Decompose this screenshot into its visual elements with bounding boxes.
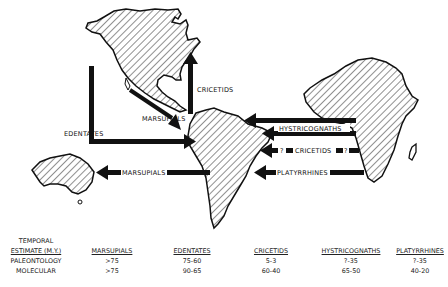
column-header-marsupials: MARSUPIALS [72,236,152,256]
table-cell: >75 [72,256,152,266]
table-cell: ?-35 [310,256,392,266]
row-label: PALEONTOLOGY [0,256,72,266]
label-cricetids-af: CRICETIDS [295,147,331,155]
temporal-estimate-table: TEMPORAL ESTIMATE (M.Y.) MARSUPIALS EDEN… [0,236,448,276]
table-row: PALEONTOLOGY >75 75-60 5-3 ?-35 ?-35 [0,256,448,266]
label-edentates: EDENTATES [64,130,104,138]
australia-region [32,154,94,194]
row-header-line1: TEMPORAL [0,236,72,246]
table-cell: 75-60 [152,256,232,266]
south-america-region [188,108,272,228]
column-header-cricetids: CRICETIDS [232,236,310,256]
label-marsupials-na: MARSUPIALS [142,115,186,123]
table-header-row: TEMPORAL ESTIMATE (M.Y.) MARSUPIALS EDEN… [0,236,448,256]
table-cell: 60-40 [232,266,310,276]
label-platyrrhines: PLATYRRHINES [277,169,328,177]
row-header-line2: ESTIMATE (M.Y.) [0,246,72,256]
table-row: MOLECULAR >75 90-65 60-40 65-50 40-20 [0,266,448,276]
label-hystricognaths: HYSTRICOGNATHS [279,125,342,133]
column-header-platyrrhines: PLATYRRHINES [392,236,448,256]
label-question-2: ? [344,147,348,155]
table-cell: 5-3 [232,256,310,266]
label-question-1: ? [280,147,284,155]
table-cell: >75 [72,266,152,276]
madagascar-region [409,144,416,160]
label-marsupials-aus: MARSUPIALS [122,169,166,177]
arrow-cricetids-north [183,52,198,114]
biogeography-map: CRICETIDS MARSUPIALS EDENTATES MARSUPIAL… [0,0,448,236]
table-cell: 40-20 [392,266,448,276]
row-label: MOLECULAR [0,266,72,276]
table-cell: 90-65 [152,266,232,276]
label-cricetids-na: CRICETIDS [197,86,233,94]
table-cell: 65-50 [310,266,392,276]
column-header-edentates: EDENTATES [152,236,232,256]
tasmania-region [78,200,82,204]
column-header-hystricognaths: HYSTRICOGNATHS [310,236,392,256]
table-cell: ?-35 [392,256,448,266]
row-header-cell: TEMPORAL ESTIMATE (M.Y.) [0,236,72,256]
